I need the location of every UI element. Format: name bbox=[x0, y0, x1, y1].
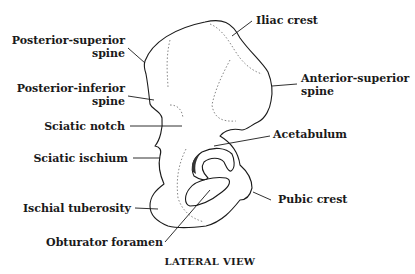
label-sciatic-notch: Sciatic notch bbox=[44, 120, 125, 133]
leader-pubic-crest bbox=[253, 192, 271, 200]
diagram-caption: LATERAL VIEW bbox=[165, 256, 256, 267]
hip-bone-outline bbox=[144, 21, 272, 228]
label-iliac-crest: Iliac crest bbox=[256, 14, 319, 27]
leader-posterior-superior bbox=[128, 48, 145, 63]
label-sciatic-ischium: Sciatic ischium bbox=[33, 152, 128, 165]
label-posterior-superior-2: spine bbox=[92, 47, 125, 60]
leader-anterior-superior bbox=[272, 84, 297, 86]
label-ischial-tuberosity: Ischial tuberosity bbox=[23, 202, 132, 215]
label-pubic-crest: Pubic crest bbox=[278, 193, 348, 206]
label-acetabulum: Acetabulum bbox=[272, 128, 347, 141]
label-posterior-inferior-2: spine bbox=[92, 95, 125, 108]
label-anterior-superior-2: spine bbox=[301, 85, 334, 98]
leader-iliac-crest bbox=[232, 21, 252, 36]
label-posterior-superior: Posterior-superior bbox=[12, 34, 125, 47]
label-posterior-inferior: Posterior-inferior bbox=[17, 82, 125, 95]
label-obturator-foramen: Obturator foramen bbox=[46, 236, 163, 249]
label-anterior-superior: Anterior-superior bbox=[300, 72, 409, 85]
hip-bone-diagram: Posterior-superior spine Posterior-infer… bbox=[0, 0, 415, 274]
